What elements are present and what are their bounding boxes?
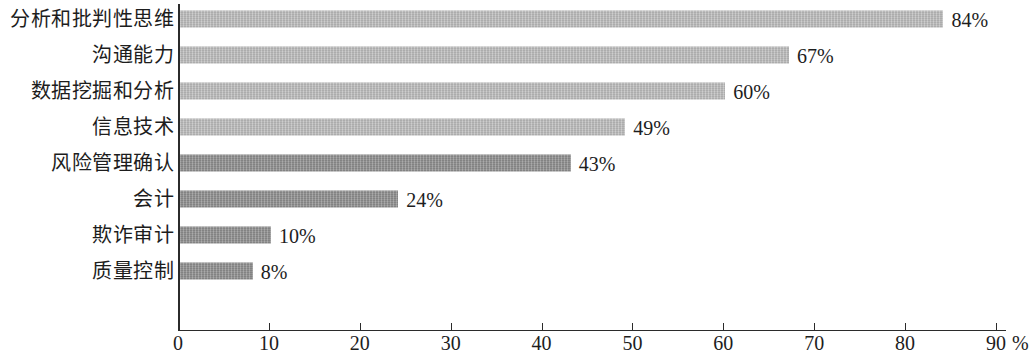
bar-value-label: 60% — [725, 81, 770, 101]
bar-row[interactable]: 分析和批判性思维84% — [0, 8, 1030, 30]
category-label: 欺诈审计 — [92, 225, 178, 245]
x-axis-tick — [451, 323, 452, 331]
x-axis-tick — [723, 323, 724, 331]
bar[interactable]: 10% — [180, 227, 271, 244]
x-axis-tick-label: 90 — [986, 333, 1006, 353]
x-axis-tick-label: 60 — [713, 333, 733, 353]
bar-value-label: 49% — [625, 117, 670, 137]
bar-value-label: 10% — [271, 225, 316, 245]
x-axis-tick-label: 70 — [804, 333, 824, 353]
x-axis-tick — [632, 323, 633, 331]
x-axis-tick — [269, 323, 270, 331]
bar[interactable]: 43% — [180, 155, 571, 172]
category-label: 质量控制 — [92, 261, 178, 281]
bar-row[interactable]: 沟通能力67% — [0, 44, 1030, 66]
plot-area: 分析和批判性思维84%沟通能力67%数据挖掘和分析60%信息技术49%风险管理确… — [0, 0, 1030, 355]
bar-row[interactable]: 欺诈审计10% — [0, 224, 1030, 246]
bar-fill — [180, 119, 625, 136]
x-axis-tick — [814, 323, 815, 331]
bar-value-label: 24% — [398, 189, 443, 209]
x-axis-tick — [360, 323, 361, 331]
x-axis-tick-label: 30 — [441, 333, 461, 353]
bar[interactable]: 24% — [180, 191, 398, 208]
bar-fill — [180, 191, 398, 208]
x-axis-tick-label: 20 — [350, 333, 370, 353]
bar[interactable]: 84% — [180, 11, 943, 28]
bar-fill — [180, 155, 571, 172]
bar-row[interactable]: 质量控制8% — [0, 260, 1030, 282]
category-label: 分析和批判性思维 — [10, 9, 178, 29]
category-label: 信息技术 — [92, 117, 178, 137]
bar-fill — [180, 47, 789, 64]
x-axis-line — [178, 330, 1006, 331]
bar-row[interactable]: 风险管理确认43% — [0, 152, 1030, 174]
x-axis-tick-label: 40 — [532, 333, 552, 353]
bar-value-label: 43% — [571, 153, 616, 173]
bar-value-label: 84% — [943, 9, 988, 29]
x-axis-tick-label: 10 — [259, 333, 279, 353]
bar-row[interactable]: 会计24% — [0, 188, 1030, 210]
bar-row[interactable]: 信息技术49% — [0, 116, 1030, 138]
bar-fill — [180, 263, 253, 280]
bar-fill — [180, 11, 943, 28]
bar-chart: 分析和批判性思维84%沟通能力67%数据挖掘和分析60%信息技术49%风险管理确… — [0, 0, 1030, 355]
category-label: 数据挖掘和分析 — [31, 81, 179, 101]
bar[interactable]: 60% — [180, 83, 725, 100]
bar[interactable]: 8% — [180, 263, 253, 280]
bar-fill — [180, 227, 271, 244]
x-axis-tick-label: 80 — [895, 333, 915, 353]
x-axis-tick-label: 50 — [622, 333, 642, 353]
x-axis-unit-label: % — [1012, 333, 1029, 353]
category-label: 会计 — [133, 189, 178, 209]
bar-value-label: 8% — [253, 261, 288, 281]
x-axis-tick — [996, 323, 997, 331]
x-axis-tick — [905, 323, 906, 331]
bar[interactable]: 49% — [180, 119, 625, 136]
bar-row[interactable]: 数据挖掘和分析60% — [0, 80, 1030, 102]
x-axis-tick-label: 0 — [173, 333, 183, 353]
bar-value-label: 67% — [789, 45, 834, 65]
category-label: 风险管理确认 — [51, 153, 178, 173]
x-axis-tick — [542, 323, 543, 331]
category-label: 沟通能力 — [92, 45, 178, 65]
bar-fill — [180, 83, 725, 100]
bar[interactable]: 67% — [180, 47, 789, 64]
